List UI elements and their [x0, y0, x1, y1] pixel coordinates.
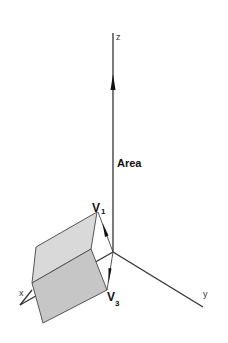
v1-arrowhead-icon: [103, 223, 109, 237]
y-axis-label: y: [203, 289, 208, 299]
area-vector-arrowhead-icon: [111, 74, 116, 90]
z-axis-label: z: [116, 32, 121, 42]
area-label: Area: [117, 157, 142, 169]
v3-arrowhead-icon: [109, 268, 112, 283]
cross-product-area-diagram: z y x Area V 1 V 3: [0, 0, 228, 343]
v3-subscript: 3: [115, 299, 120, 308]
v3-label: V: [107, 290, 115, 304]
v1-subscript: 1: [101, 207, 106, 216]
y-axis: [113, 252, 203, 307]
x-axis-label: x: [19, 288, 24, 298]
v1-label: V: [92, 201, 100, 215]
